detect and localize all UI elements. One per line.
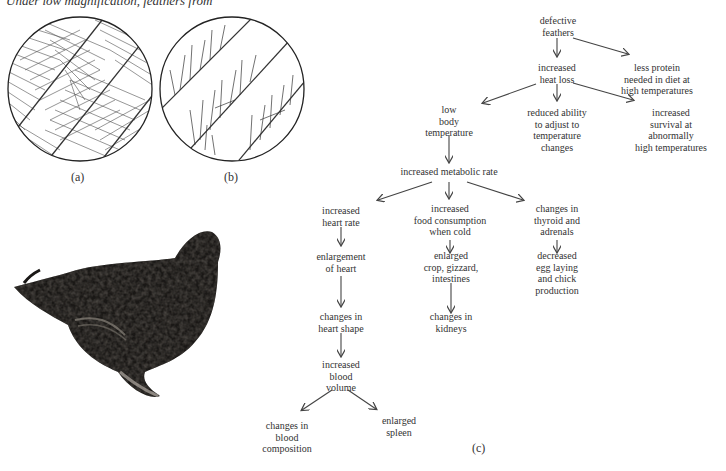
node-enlarged-spleen: enlargedspleen xyxy=(374,415,424,438)
node-increased-heart-rate: increasedheart rate xyxy=(311,205,371,228)
node-increased-food-consumption: increasedfood consumptionwhen cold xyxy=(405,203,495,238)
node-low-body-temperature: lowbodytemperature xyxy=(414,104,484,139)
node-increased-survival: increasedsurvival atabnormallyhigh tempe… xyxy=(625,107,717,153)
node-changes-heart-shape: changes inheart shape xyxy=(310,311,372,334)
node-increased-heat-loss: increasedheat loss xyxy=(527,62,587,85)
node-changes-thyroid: changes inthyroid andadrenals xyxy=(527,203,587,238)
panel-c-label: (c) xyxy=(472,441,485,456)
node-less-protein: less proteinneeded in diet athigh temper… xyxy=(612,62,702,97)
node-reduced-ability: reduced abilityto adjust totemperaturech… xyxy=(520,107,594,153)
node-changes-blood-composition: changes inbloodcomposition xyxy=(252,420,322,455)
node-enlargement-of-heart: enlargementof heart xyxy=(306,251,376,274)
node-increased-blood-volume: increasedbloodvolume xyxy=(311,359,371,394)
node-defective-feathers: defectivefeathers xyxy=(533,15,583,38)
node-enlarged-crop: enlargedcrop, gizzard,intestines xyxy=(415,250,487,285)
node-changes-kidneys: changes inkidneys xyxy=(420,311,482,334)
node-increased-metabolic-rate: increased metabolic rate xyxy=(388,166,510,178)
node-decreased-egg-laying: decreasedegg layingand chickproduction xyxy=(527,250,587,296)
